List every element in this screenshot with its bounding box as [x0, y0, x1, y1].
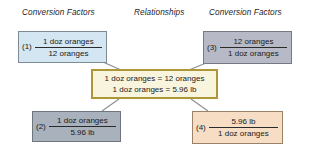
box-3-index-label: (3): [207, 44, 220, 52]
heading-right-conversion-factors: Conversion Factors: [209, 8, 282, 17]
box-3-numerator: 12 oranges: [220, 36, 287, 48]
box-4-fraction: 5.96 lb 1 doz oranges: [209, 116, 278, 139]
box-2-fraction: 1 doz oranges 5.96 lb: [49, 115, 116, 138]
box-1-numerator: 1 doz oranges: [35, 36, 102, 48]
connector-box2-to-center: [102, 99, 119, 111]
relationship-line-1: 1 doz oranges = 12 oranges: [105, 73, 205, 84]
box-4-numerator: 5.96 lb: [209, 116, 278, 128]
heading-relationships: Relationships: [134, 8, 184, 17]
conversion-factor-box-1: (1) 1 doz oranges 12 oranges: [18, 31, 107, 63]
conversion-factor-diagram: Conversion Factors Relationships Convers…: [0, 0, 310, 148]
relationships-box: 1 doz oranges = 12 oranges 1 doz oranges…: [91, 69, 218, 99]
box-4-denominator: 1 doz oranges: [209, 128, 278, 139]
heading-left-conversion-factors: Conversion Factors: [22, 8, 95, 17]
conversion-factor-box-4: (4) 5.96 lb 1 doz oranges: [192, 111, 283, 144]
box-1-index-label: (1): [22, 43, 35, 51]
box-3-fraction: 12 oranges 1 doz oranges: [220, 36, 287, 59]
box-2-index-label: (2): [36, 123, 49, 131]
box-4-index-label: (4): [196, 124, 209, 132]
box-3-denominator: 1 doz oranges: [220, 48, 287, 59]
box-1-denominator: 12 oranges: [35, 48, 102, 59]
conversion-factor-box-2: (2) 1 doz oranges 5.96 lb: [32, 111, 121, 142]
connector-box4-to-center: [191, 99, 208, 111]
conversion-factor-box-3: (3) 12 oranges 1 doz oranges: [203, 31, 292, 64]
box-2-denominator: 5.96 lb: [49, 127, 116, 138]
relationship-line-2: 1 doz oranges = 5.96 lb: [113, 84, 197, 95]
box-2-numerator: 1 doz oranges: [49, 115, 116, 127]
box-1-fraction: 1 doz oranges 12 oranges: [35, 36, 102, 59]
